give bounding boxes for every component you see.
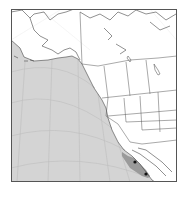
occurrence-point <box>144 172 147 175</box>
range-map <box>0 0 188 197</box>
occurrence-point <box>133 160 136 163</box>
